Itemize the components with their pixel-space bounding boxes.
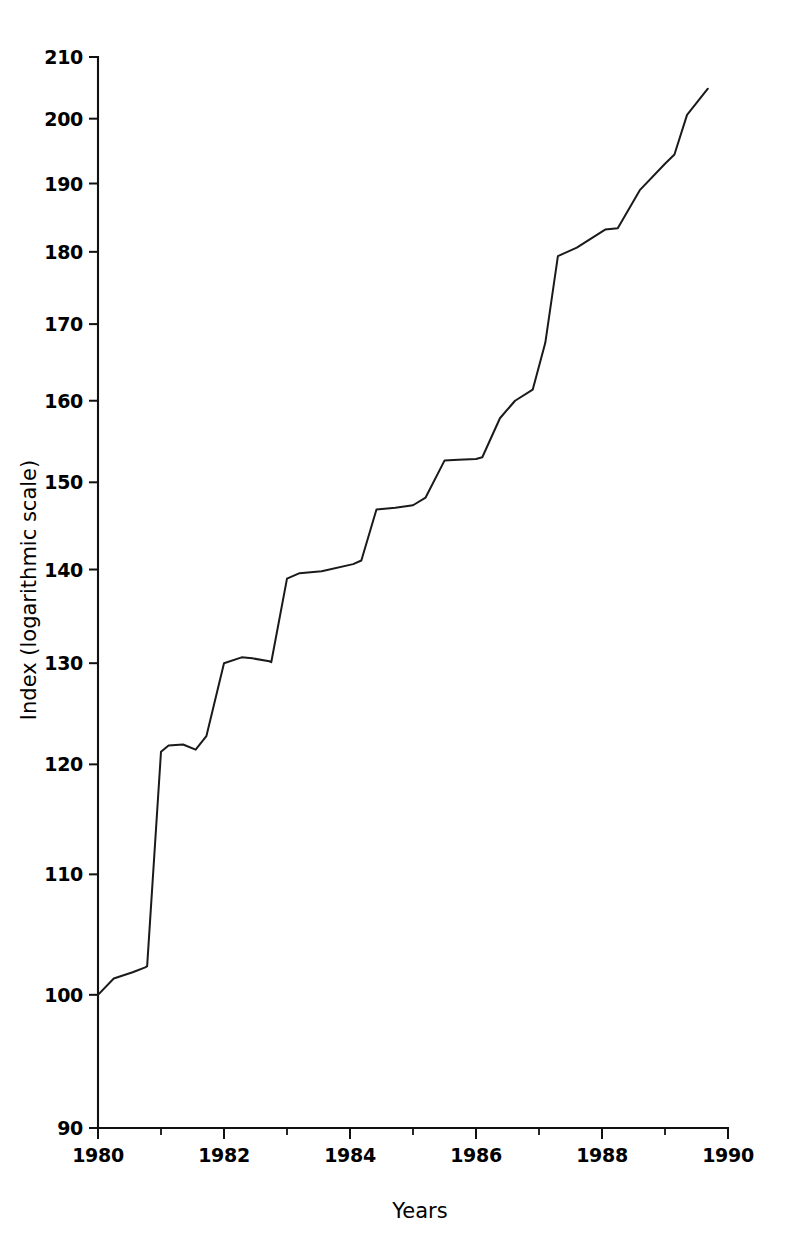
y-tick-labels: 90100110120130140150160170180190200210 bbox=[44, 46, 83, 1139]
x-tick-label: 1986 bbox=[450, 1144, 502, 1166]
x-tick-label: 1982 bbox=[198, 1144, 250, 1166]
y-tick-label: 170 bbox=[44, 313, 83, 335]
y-tick-label: 140 bbox=[44, 559, 83, 581]
x-tick-label: 1980 bbox=[72, 1144, 124, 1166]
y-tick-label: 120 bbox=[44, 753, 83, 775]
y-axis-title: Index (logarithmic scale) bbox=[17, 460, 41, 720]
x-axis-title: Years bbox=[391, 1199, 447, 1223]
data-series-line bbox=[98, 89, 708, 995]
y-tick-label: 90 bbox=[57, 1117, 83, 1139]
x-tick-label: 1988 bbox=[576, 1144, 628, 1166]
y-tick-label: 180 bbox=[44, 241, 83, 263]
y-tick-label: 210 bbox=[44, 46, 83, 68]
chart-figure: 90100110120130140150160170180190200210 1… bbox=[0, 0, 803, 1244]
line-chart: 90100110120130140150160170180190200210 1… bbox=[0, 0, 803, 1244]
y-tick-label: 130 bbox=[44, 652, 83, 674]
x-tick-labels: 198019821984198619881990 bbox=[72, 1144, 754, 1166]
y-tick-label: 150 bbox=[44, 471, 83, 493]
x-tick-label: 1990 bbox=[702, 1144, 754, 1166]
chart-ticks bbox=[89, 57, 728, 1139]
chart-axes bbox=[98, 57, 728, 1128]
y-tick-label: 200 bbox=[44, 108, 83, 130]
data-series-layer bbox=[98, 89, 708, 995]
y-tick-label: 160 bbox=[44, 390, 83, 412]
x-tick-label: 1984 bbox=[324, 1144, 376, 1166]
y-tick-label: 190 bbox=[44, 173, 83, 195]
y-tick-label: 100 bbox=[44, 984, 83, 1006]
y-tick-label: 110 bbox=[44, 863, 83, 885]
